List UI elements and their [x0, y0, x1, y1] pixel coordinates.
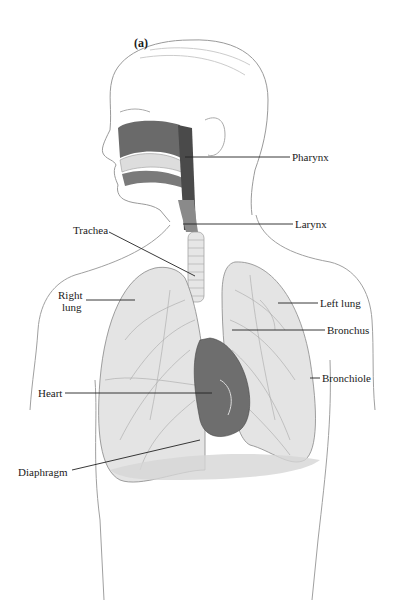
right-lung-label-line1: Right [58, 290, 82, 301]
trachea-label: Trachea [73, 225, 108, 236]
left-lung-label: Left lung [320, 298, 361, 309]
right-lung-label-line2: lung [62, 302, 82, 313]
right-lung-drawing [99, 267, 205, 482]
diaphragm-label: Diaphragm [18, 467, 67, 478]
larynx-label: Larynx [295, 219, 327, 230]
pharynx-label: Pharynx [292, 152, 329, 163]
bronchiole-label: Bronchiole [322, 373, 371, 384]
bronchus-label: Bronchus [327, 325, 369, 336]
heart-label: Heart [38, 388, 62, 399]
panel-label: (a) [134, 36, 148, 51]
